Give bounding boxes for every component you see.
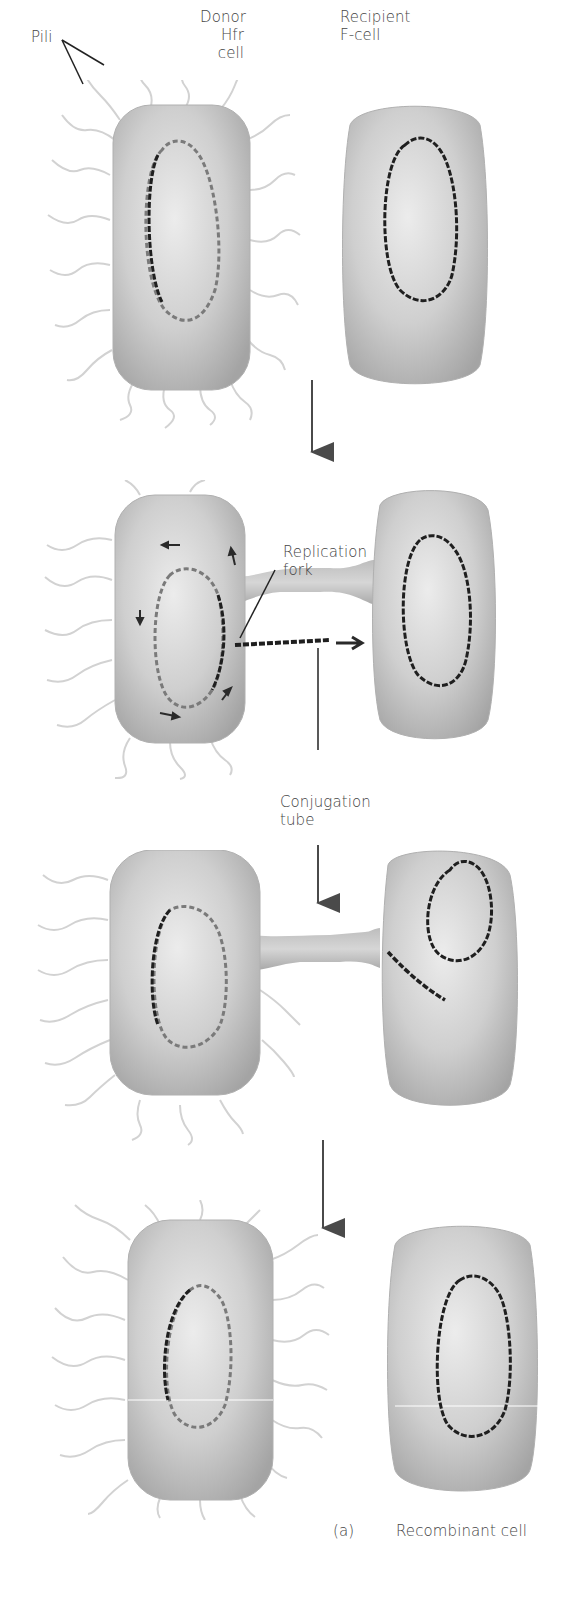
recipient-cell-body — [343, 106, 488, 384]
replication-label-line1: Replication — [283, 543, 367, 561]
recipient-label-line1: Recipient — [340, 8, 411, 26]
donor-hfr-cell-label: Donor Hfr cell — [200, 8, 244, 62]
recombinant-cell-label: Recombinant cell — [396, 1522, 527, 1540]
donor-cell-body — [110, 850, 260, 1095]
panel-label: (a) — [333, 1522, 354, 1540]
conjugation-tube — [255, 928, 380, 970]
conjugation-tube-label: Conjugation tube — [280, 793, 371, 829]
replication-fork-label: Replication fork — [283, 543, 367, 579]
stage-2-conjugation-tube — [0, 480, 584, 780]
donor-label-line3: cell — [200, 44, 244, 62]
donor-cell-body — [113, 105, 250, 390]
donor-label-line1: Donor — [200, 8, 244, 26]
recipient-cell-body — [373, 491, 496, 739]
recipient-f-cell-label: Recipient F-cell — [340, 8, 411, 44]
transfer-direction-arrow — [336, 637, 362, 649]
donor-label-line2: Hfr — [200, 26, 244, 44]
conjugation-label-line1: Conjugation — [280, 793, 371, 811]
stage-4-recombinant — [0, 1200, 584, 1520]
recombinant-cell-body — [388, 1226, 538, 1491]
stage-3-dna-transfer — [0, 850, 584, 1170]
recipient-cell-body — [382, 851, 517, 1105]
recipient-label-line2: F-cell — [340, 26, 411, 44]
conjugation-label-line2: tube — [280, 811, 371, 829]
donor-cell-body — [115, 495, 245, 743]
donor-cell-body — [128, 1220, 273, 1500]
transferred-dna-strand — [235, 640, 330, 645]
down-arrow-1 — [0, 380, 584, 470]
replication-label-line2: fork — [283, 561, 367, 579]
